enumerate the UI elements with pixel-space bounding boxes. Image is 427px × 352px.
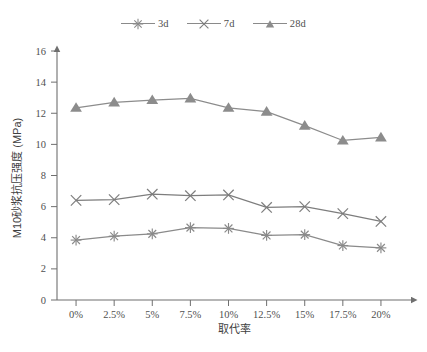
y-tick-label: 4: [41, 232, 47, 243]
x-tick-label: 12.5%: [253, 309, 280, 320]
data-point: [376, 242, 387, 253]
series-7d: [71, 189, 386, 227]
x-tick-label: 10%: [219, 309, 239, 320]
y-tick-label: 2: [41, 263, 46, 274]
y-axis-title: M10砂浆抗压强度 (MPa): [10, 118, 23, 238]
data-point: [338, 208, 348, 218]
y-tick-label: 10: [36, 139, 47, 150]
x-tick-label: 7.5%: [179, 309, 201, 320]
data-point: [185, 222, 196, 233]
data-point: [376, 216, 386, 226]
data-point: [223, 223, 234, 234]
series-line: [76, 194, 381, 221]
y-tick-label: 0: [41, 295, 46, 306]
x-axis-title: 取代率: [218, 322, 251, 335]
data-point: [261, 230, 272, 241]
data-point: [185, 93, 197, 103]
asterisk-marker-icon: [261, 230, 272, 241]
asterisk-marker-icon: [185, 222, 196, 233]
data-series-layer: [70, 93, 387, 253]
data-point: [299, 120, 311, 130]
y-axis-ticks: 0246810121416: [36, 46, 58, 306]
asterisk-marker-icon: [376, 242, 387, 253]
chart-svg: 0246810121416 0%2.5%5%7.5%10%12.5%15%17.…: [0, 0, 427, 352]
data-point: [299, 229, 310, 240]
y-tick-label: 8: [41, 170, 46, 181]
asterisk-marker-icon: [299, 229, 310, 240]
axis-lines: [57, 51, 412, 300]
chart-plot-area: 0246810121416 0%2.5%5%7.5%10%12.5%15%17.…: [0, 0, 427, 352]
data-point: [147, 228, 158, 239]
asterisk-marker-icon: [337, 240, 348, 251]
x-tick-label: 15%: [295, 309, 315, 320]
x-tick-label: 20%: [371, 309, 391, 320]
y-tick-label: 6: [41, 201, 46, 212]
y-tick-label: 16: [36, 46, 47, 57]
asterisk-marker-icon: [223, 223, 234, 234]
x-tick-label: 5%: [145, 309, 159, 320]
asterisk-marker-icon: [71, 235, 82, 246]
series-3d: [71, 222, 387, 253]
data-point: [71, 235, 82, 246]
y-tick-label: 12: [36, 108, 47, 119]
x-cross-marker-icon: [376, 216, 386, 226]
series-28d: [70, 93, 387, 145]
triangle-marker-icon: [375, 132, 387, 142]
x-tick-label: 2.5%: [103, 309, 125, 320]
data-point: [337, 240, 348, 251]
triangle-marker-icon: [185, 93, 197, 103]
data-point: [109, 231, 120, 242]
x-axis-ticks: 0%2.5%5%7.5%10%12.5%15%17.5%20%: [69, 300, 391, 320]
asterisk-marker-icon: [147, 228, 158, 239]
data-point: [375, 132, 387, 142]
chart-page: 3d 7d: [0, 0, 427, 352]
asterisk-marker-icon: [109, 231, 120, 242]
triangle-marker-icon: [299, 120, 311, 130]
x-tick-label: 0%: [69, 309, 83, 320]
y-tick-label: 14: [36, 77, 47, 88]
x-tick-label: 17.5%: [329, 309, 356, 320]
x-cross-marker-icon: [338, 208, 348, 218]
